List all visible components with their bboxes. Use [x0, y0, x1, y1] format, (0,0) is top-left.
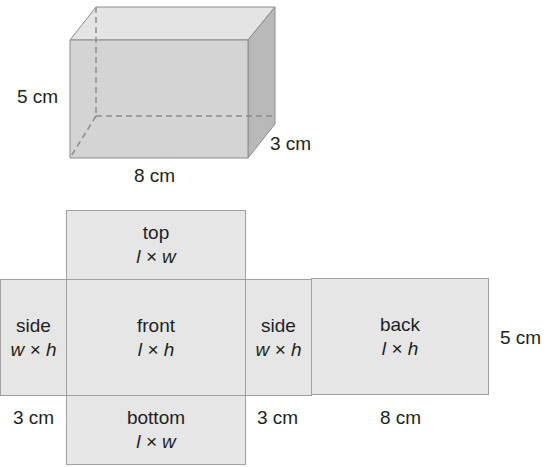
- face-name: bottom: [127, 406, 185, 430]
- face-formula: w × h: [11, 338, 57, 362]
- prism-width-label: 3 cm: [270, 133, 311, 155]
- face-name: side: [261, 314, 296, 338]
- face-name: back: [380, 313, 420, 337]
- prism-height-label: 5 cm: [17, 86, 58, 108]
- face-name: top: [143, 221, 169, 245]
- net-height-label: 5 cm: [500, 327, 541, 349]
- prism-length-label: 8 cm: [134, 165, 175, 187]
- net-left-side-width-label: 3 cm: [13, 407, 54, 429]
- face-formula: l × w: [136, 430, 176, 454]
- face-formula: l × h: [382, 337, 418, 361]
- rectangular-prism-and-net-diagram: 5 cm 3 cm 8 cm top l × w side w × h fron…: [0, 0, 547, 467]
- face-formula: w × h: [256, 338, 302, 362]
- net-face-back: back l × h: [311, 278, 489, 395]
- net-right-side-width-label: 3 cm: [257, 407, 298, 429]
- net-face-side-right: side w × h: [245, 279, 312, 396]
- prism-top-face: [70, 7, 275, 40]
- net-face-bottom: bottom l × w: [66, 395, 246, 465]
- face-name: side: [16, 314, 51, 338]
- face-name: front: [137, 314, 175, 338]
- rectangular-prism: [0, 0, 547, 200]
- net-back-length-label: 8 cm: [380, 407, 421, 429]
- net-face-front: front l × h: [66, 279, 246, 396]
- face-formula: l × w: [136, 245, 176, 269]
- face-formula: l × h: [138, 338, 174, 362]
- net-face-side-left: side w × h: [0, 279, 67, 396]
- net-face-top: top l × w: [66, 210, 246, 280]
